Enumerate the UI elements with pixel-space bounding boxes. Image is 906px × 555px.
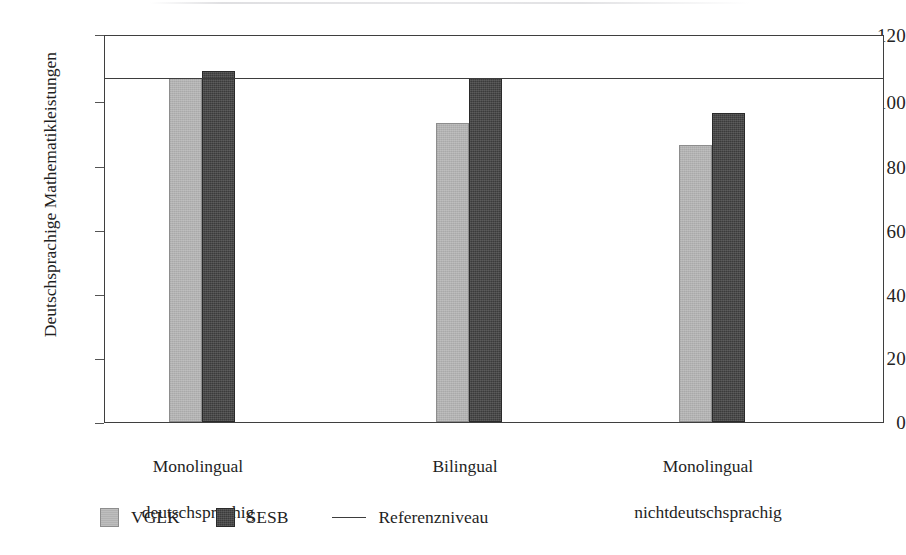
bar-vglk-monolingual-nichtdeutschsprachig <box>679 145 712 422</box>
x-axis-group-label-1-line-1: Bilingual <box>355 455 575 478</box>
bar-vglk-monolingual-deutschsprachig <box>169 78 202 422</box>
y-tick-mark-80 <box>95 167 104 168</box>
reference-line <box>105 78 883 79</box>
x-axis-group-label-2: Monolingual nichtdeutschsprachig <box>598 432 818 547</box>
x-axis-group-label-2-line-1: Monolingual <box>598 455 818 478</box>
y-tick-mark-100 <box>95 102 104 103</box>
legend-swatch-dark-square-icon <box>216 508 235 527</box>
y-tick-mark-60 <box>95 231 104 232</box>
x-axis-group-label-1: Bilingual <box>355 432 575 501</box>
legend-line-icon <box>332 517 366 518</box>
chart-legend: VGLK SESB Referenzniveau <box>100 508 488 527</box>
page-edge-artifact <box>150 2 750 4</box>
legend-label-vglk: VGLK <box>131 508 180 527</box>
legend-label-sesb: SESB <box>247 508 289 527</box>
y-axis-title: Deutschsprachige Mathematikleistungen <box>41 0 60 395</box>
legend-item-sesb: SESB <box>216 508 289 527</box>
legend-label-referenzniveau: Referenzniveau <box>378 508 488 527</box>
chart-figure: Deutschsprachige Mathematikleistungen 12… <box>0 0 906 555</box>
plot-area <box>104 35 884 423</box>
y-tick-mark-0 <box>95 423 104 424</box>
y-tick-mark-40 <box>95 295 104 296</box>
bar-sesb-monolingual-nichtdeutschsprachig <box>712 113 745 422</box>
y-tick-mark-120 <box>95 35 104 36</box>
x-axis-group-label-2-line-2: nichtdeutschsprachig <box>598 501 818 524</box>
legend-item-referenzniveau: Referenzniveau <box>332 508 488 527</box>
y-tick-mark-20 <box>95 359 104 360</box>
bar-sesb-bilingual <box>469 78 502 422</box>
x-axis-group-label-0: Monolingual deutschsprachig <box>88 432 308 547</box>
bar-vglk-bilingual <box>436 123 469 422</box>
x-axis-group-label-0-line-1: Monolingual <box>88 455 308 478</box>
legend-item-vglk: VGLK <box>100 508 180 527</box>
legend-swatch-light-square-icon <box>100 508 119 527</box>
bar-sesb-monolingual-deutschsprachig <box>202 71 235 422</box>
